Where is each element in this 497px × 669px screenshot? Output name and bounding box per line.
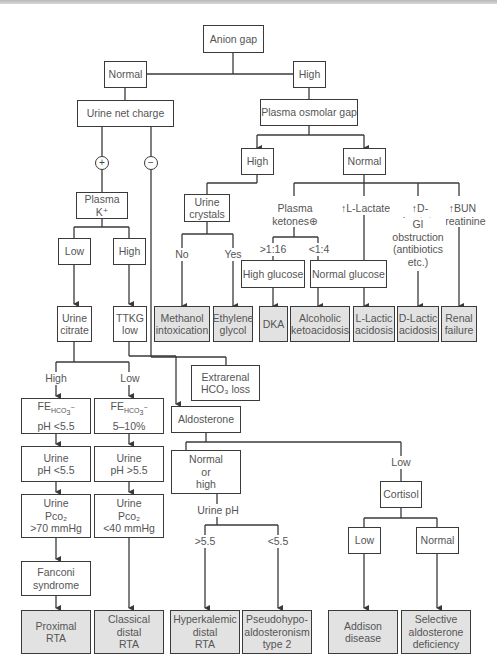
node-cortisol-low: Low: [348, 527, 381, 554]
outcome-hyperkalemic-distal-rta: Hyperkalemic distal RTA: [170, 610, 240, 654]
outcome-classical-distal-rta: Classical distal RTA: [94, 610, 164, 654]
outcome-l-lactic-acidosis: L-Lactic acidosis: [353, 306, 395, 342]
node-high: High: [293, 61, 326, 88]
outcome-addison-disease: Addison disease: [328, 610, 398, 654]
fe-hco3-label: FEHCO3−: [111, 400, 148, 420]
node-urine-pco2-low: Urine Pco₂ <40 mmHg: [94, 494, 164, 538]
outcome-renal-failure: Renal failure: [441, 306, 477, 342]
node-fe-hco3-low: FEHCO3− 5–10%: [94, 398, 164, 434]
minus-icon: −: [144, 156, 158, 170]
edge-label-bun: ↑BUN creatinine: [440, 202, 485, 227]
outcome-dka: DKA: [259, 306, 288, 342]
outcome-ethylene-glycol: Ethylene glycol: [213, 306, 253, 342]
fe-hco3-label: FEHCO3−: [38, 400, 75, 420]
node-plasma-osmolar-gap: Plasma osmolar gap: [260, 99, 358, 126]
edge-label-ph-gt: >5.5: [193, 535, 217, 548]
node-normal-or-high: Normal or high: [171, 450, 241, 494]
edge-label-gi-obstruction: GI obstruction (antibiotics etc.): [390, 218, 446, 268]
node-pog-high: High: [241, 148, 274, 175]
outcome-pseudohypoaldosteronism: Pseudohypo- aldosteronism type 2: [242, 610, 312, 654]
node-pog-normal: Normal: [343, 148, 386, 175]
edge-label-urine-ph: Urine pH: [196, 504, 240, 517]
node-cortisol-normal: Normal: [416, 527, 459, 554]
edge-label-lt-1-4: <1:4: [305, 243, 333, 256]
node-plasma-k: Plasma K⁺: [76, 192, 128, 219]
outcome-methanol: Methanol intoxication: [154, 306, 210, 342]
outcome-d-lactic-acidosis: D-Lactic acidosis: [397, 306, 439, 342]
node-ttkg-low: TTKG low: [113, 306, 147, 342]
edge-label-aldo-low: Low: [390, 456, 412, 469]
node-urine-ph-gt: Urine pH >5.5: [94, 446, 164, 482]
edge-label-ph-lt: <5.5: [266, 535, 290, 548]
node-urine-citrate: Urine citrate: [57, 306, 92, 342]
fe-hco3-value: pH <5.5: [37, 420, 74, 433]
edge-label-citrate-low: Low: [118, 372, 142, 385]
plus-icon: +: [95, 156, 109, 170]
node-normal-glucose: Normal glucose: [310, 260, 387, 288]
outcome-selective-aldosterone-deficiency: Selective aldosterone deficiency: [401, 610, 471, 654]
node-extrarenal-hco3-loss: Extrarenal HCO₃ loss: [191, 365, 260, 401]
node-k-high: High: [113, 238, 146, 265]
edge-label-plasma-ketones: Plasma ketones⊕: [255, 202, 335, 227]
node-normal: Normal: [104, 61, 147, 88]
fe-hco3-value: 5–10%: [113, 420, 146, 433]
node-anion-gap: Anion gap: [203, 25, 264, 53]
edge-label-yes: Yes: [221, 248, 245, 261]
node-urine-ph-lt: Urine pH <5.5: [21, 446, 91, 482]
edge-label-no: No: [172, 248, 192, 261]
node-high-glucose: High glucose: [241, 260, 305, 288]
node-k-low: Low: [58, 238, 91, 265]
edge-label-l-lactate: ↑L-Lactate: [338, 202, 393, 215]
node-cortisol: Cortisol: [380, 481, 422, 508]
node-aldosterone: Aldosterone: [171, 406, 241, 433]
outcome-alcoholic-ketoacidosis: Alcoholic ketoacidosis: [290, 306, 350, 342]
node-urine-pco2-high: Urine Pco₂ >70 mmHg: [21, 494, 91, 538]
edge-label-citrate-high: High: [42, 372, 70, 385]
node-urine-crystals: Urine crystals: [184, 194, 230, 222]
node-fe-hco3-high: FEHCO3− pH <5.5: [21, 398, 91, 434]
outcome-proximal-rta: Proximal RTA: [21, 610, 91, 654]
node-fanconi-syndrome: Fanconi syndrome: [21, 561, 91, 596]
node-urine-net-charge: Urine net charge: [77, 100, 174, 127]
edge-label-gt-1-16: >1:16: [257, 243, 289, 256]
